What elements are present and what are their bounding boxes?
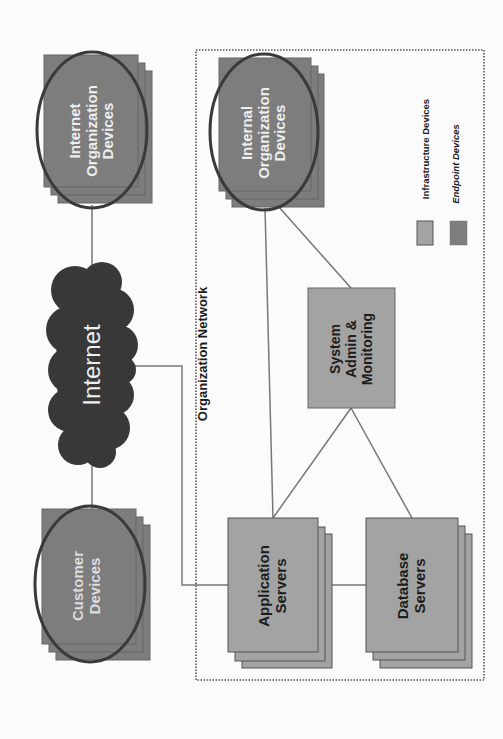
legend-label-infrastructure: Infrastructure Devices [419,94,433,204]
internet-cloud-label: Internet [75,300,109,430]
legend-swatch-endpoint [450,221,467,245]
legend-swatch-infrastructure [417,221,433,245]
database-servers-label: Database Servers [393,536,431,636]
application-servers-label: Application Servers [254,536,292,636]
edge-internal-org-to-sysadmin [278,206,351,288]
legend-label-endpoint: Endpoint Devices [449,122,463,206]
edge-sysadmin-to-app-servers [273,408,351,518]
system-admin-label: System Admin & Monitoring [325,294,379,404]
customer-devices-label: Customer Devices [68,536,106,636]
internet-org-devices-label: Internet Organization Devices [65,67,119,195]
edge-internal-org-to-app-servers [265,208,273,518]
internal-org-devices-label: Internal Organization Devices [237,69,291,197]
organization-network-label: Organization Network [193,284,213,424]
edge-sysadmin-to-db-servers [351,408,412,518]
